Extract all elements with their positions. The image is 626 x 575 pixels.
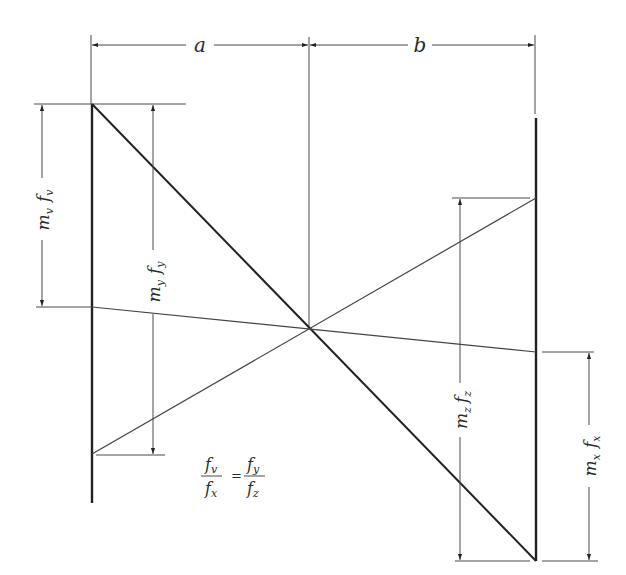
- dimension-my-fy: myfy: [144, 105, 167, 454]
- svg-text:fv: fv: [204, 455, 218, 476]
- diagonal-main: [92, 104, 536, 561]
- isopleth-lines: [92, 104, 536, 561]
- svg-text:myfy: myfy: [144, 261, 167, 303]
- dimension-a-label: a: [194, 33, 206, 57]
- dimension-b: b: [310, 33, 534, 57]
- dimension-b-label: b: [414, 33, 427, 57]
- ratio-equation: fv fx = fy fz: [201, 455, 265, 500]
- dimension-a: a: [92, 33, 308, 57]
- svg-text:fy: fy: [246, 455, 260, 476]
- svg-text:fz: fz: [246, 479, 259, 500]
- dimension-mx-fx: mxfx: [580, 353, 603, 560]
- near-horizontal: [92, 307, 536, 352]
- dimension-mz-fz: mzfz: [451, 199, 474, 560]
- svg-text:=: =: [231, 468, 242, 483]
- nomogram-diagram: a b mvfv: [0, 0, 626, 575]
- tick-lines: [34, 104, 598, 561]
- svg-text:mxfx: mxfx: [580, 435, 603, 477]
- dimension-mv-fv: mvfv: [33, 105, 56, 306]
- svg-text:mzfz: mzfz: [451, 391, 474, 429]
- svg-text:fx: fx: [204, 479, 218, 500]
- svg-text:mvfv: mvfv: [33, 189, 56, 231]
